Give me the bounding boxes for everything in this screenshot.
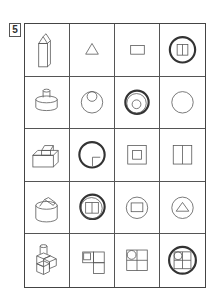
circle-with-rectangle-icon	[115, 182, 159, 234]
circled-grid-with-circle-icon	[160, 234, 205, 287]
cell-r4-c3-circle-rectangle[interactable]	[115, 182, 160, 235]
cell-r4-c2-answer[interactable]	[70, 182, 115, 235]
rectangle-icon	[115, 24, 159, 76]
stacked-cubes-with-cylinder-icon	[25, 234, 69, 287]
circled-circle-split-square-icon	[70, 182, 114, 234]
cell-r2-c1-object	[25, 77, 70, 130]
triangle-icon	[70, 24, 114, 76]
stacked-cylinders-icon	[25, 77, 69, 129]
circled-split-square-icon	[160, 24, 205, 76]
cell-r5-c1-object	[25, 234, 70, 287]
box-with-small-box-icon	[25, 129, 69, 181]
circle-with-triangle-icon	[160, 182, 205, 234]
house-prism-icon	[25, 24, 69, 76]
circled-concentric-circles-icon	[115, 77, 159, 129]
cell-r5-c3-grid-circle[interactable]	[115, 234, 160, 287]
nested-squares-icon	[115, 129, 159, 181]
view-matching-grid	[24, 23, 206, 288]
circled-square-corner-icon	[70, 129, 114, 181]
cylinder-with-prism-icon	[25, 182, 69, 234]
cell-r5-c4-answer[interactable]	[160, 234, 205, 287]
circle-inner-top-circle-icon	[70, 77, 114, 129]
cell-r3-c3-nested-squares[interactable]	[115, 129, 160, 182]
circle-icon	[160, 77, 205, 129]
cell-r1-c2-triangle[interactable]	[70, 24, 115, 77]
grid-with-circle-icon	[115, 234, 159, 287]
cell-r3-c2-answer[interactable]	[70, 129, 115, 182]
split-square-icon	[160, 129, 205, 181]
cell-r3-c4-split-square[interactable]	[160, 129, 205, 182]
cell-r1-c3-rectangle[interactable]	[115, 24, 160, 77]
cell-r2-c2-circle-with-circle[interactable]	[70, 77, 115, 130]
cell-r4-c4-circle-triangle[interactable]	[160, 182, 205, 235]
cell-r5-c2-l-squares[interactable]	[70, 234, 115, 287]
cell-r1-c1-object	[25, 24, 70, 77]
problem-number: 5	[9, 23, 21, 37]
cell-r1-c4-answer[interactable]	[160, 24, 205, 77]
cell-r2-c4-circle[interactable]	[160, 77, 205, 130]
cell-r2-c3-answer[interactable]	[115, 77, 160, 130]
cell-r4-c1-object	[25, 182, 70, 235]
cell-r3-c1-object	[25, 129, 70, 182]
l-shape-squares-icon	[70, 234, 114, 287]
